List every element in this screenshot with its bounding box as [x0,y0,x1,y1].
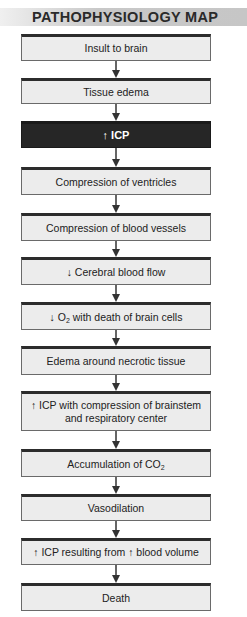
flow-step-label: Insult to brain [84,42,147,55]
flow-step-o2-death: ↓ O2 with death of brain cells [21,302,211,330]
flow-step-label: ↓ Cerebral blood flow [67,266,166,279]
flow-step-compression-ventricles: Compression of ventricles [21,167,211,195]
flow-step-co2: Accumulation of CO2 [21,449,211,477]
down-arrow-icon [110,375,122,391]
flow-step-icp-blood-volume: ↑ ICP resulting from ↑ blood volume [21,538,211,565]
flowchart: Insult to brainTissue edema↑ ICPCompress… [0,0,247,617]
flow-step-label: Compression of ventricles [56,176,177,189]
flow-step-label: Compression of blood vessels [46,222,186,235]
down-arrow-icon [110,148,122,167]
down-arrow-icon [110,330,122,346]
flow-step-cerebral-blood-flow: ↓ Cerebral blood flow [21,257,211,285]
flow-step-label: ↑ ICP [103,129,130,142]
down-arrow-icon [110,477,122,494]
flow-step-insult: Insult to brain [21,34,211,61]
down-arrow-icon [110,195,122,213]
flow-step-label: Vasodilation [88,502,144,515]
flow-step-label: ↓ O2 with death of brain cells [50,311,183,324]
flow-step-edema-necrotic: Edema around necrotic tissue [21,346,211,375]
flow-step-label: ↑ ICP with compression of brainstemand r… [31,399,201,425]
flow-step-tissue-edema: Tissue edema [21,78,211,104]
flow-step-death: Death [21,583,211,611]
flow-step-vasodilation: Vasodilation [21,494,211,521]
down-arrow-icon [110,521,122,538]
flow-step-label: ↑ ICP resulting from ↑ blood volume [33,546,199,559]
down-arrow-icon [110,61,122,78]
down-arrow-icon [110,241,122,257]
down-arrow-icon [110,431,122,449]
flow-step-label: Death [102,592,130,605]
down-arrow-icon [110,285,122,302]
flow-step-label: Tissue edema [83,86,149,99]
flow-step-icp-brainstem: ↑ ICP with compression of brainstemand r… [21,391,211,431]
down-arrow-icon [110,565,122,583]
down-arrow-icon [110,104,122,121]
flow-step-label: Accumulation of CO2 [67,458,164,471]
flow-step-icp: ↑ ICP [21,121,211,148]
flow-step-label: Edema around necrotic tissue [47,355,186,368]
flow-step-compression-vessels: Compression of blood vessels [21,213,211,241]
